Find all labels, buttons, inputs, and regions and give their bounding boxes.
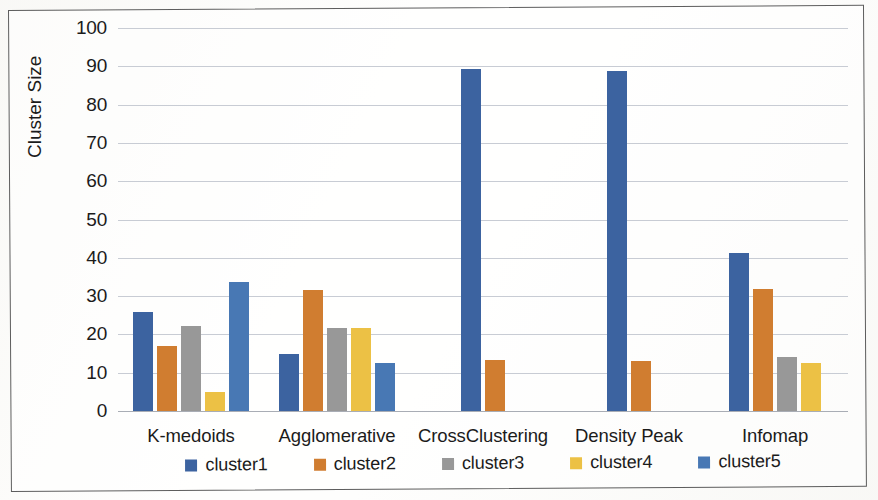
bar-cluster4[interactable] <box>801 363 821 411</box>
y-axis-tick-label: 20 <box>86 323 107 345</box>
bar-cluster3[interactable] <box>181 326 201 411</box>
legend-swatch-icon <box>314 458 326 470</box>
bar-group: CrossClustering <box>410 28 556 411</box>
bar-cluster5[interactable] <box>375 363 395 411</box>
bar-group: Infomap <box>702 28 848 411</box>
y-axis-tick-label: 0 <box>97 400 107 422</box>
bar-cluster1[interactable] <box>279 354 299 411</box>
legend-swatch-icon <box>570 457 582 469</box>
y-axis-tick-label: 60 <box>86 170 107 192</box>
legend-label: cluster4 <box>590 452 652 473</box>
bar-cluster3[interactable] <box>777 357 797 411</box>
legend-item-cluster5[interactable]: cluster5 <box>698 451 780 473</box>
legend-label: cluster3 <box>462 453 524 474</box>
legend-item-cluster4[interactable]: cluster4 <box>570 452 652 474</box>
legend-item-cluster3[interactable]: cluster3 <box>442 453 524 475</box>
legend-swatch-icon <box>698 456 710 468</box>
y-axis-tick-label: 70 <box>86 132 107 154</box>
x-axis-category-label: Infomap <box>742 425 808 447</box>
bar-cluster1[interactable] <box>607 71 627 411</box>
bar-cluster4[interactable] <box>351 328 371 411</box>
legend-item-cluster1[interactable]: cluster1 <box>185 454 267 476</box>
chart-legend: cluster1cluster2cluster3cluster4cluster5 <box>118 451 848 476</box>
y-axis-tick-label: 90 <box>86 55 107 77</box>
y-axis-tick-label: 40 <box>86 247 107 269</box>
bar-cluster5[interactable] <box>229 282 249 411</box>
bar-group-bars <box>264 28 410 411</box>
legend-label: cluster1 <box>205 454 267 475</box>
y-axis-tick-label: 10 <box>86 362 107 384</box>
y-axis-tick-label: 50 <box>86 209 107 231</box>
bar-cluster2[interactable] <box>631 361 651 411</box>
bar-cluster1[interactable] <box>133 312 153 411</box>
bar-group-bars <box>118 28 264 411</box>
legend-swatch-icon <box>442 457 454 469</box>
y-axis-tick-label: 30 <box>86 285 107 307</box>
bar-cluster1[interactable] <box>729 253 749 411</box>
bar-cluster2[interactable] <box>303 290 323 411</box>
bar-cluster2[interactable] <box>753 289 773 411</box>
bar-group-bars <box>556 28 702 411</box>
bar-cluster4[interactable] <box>205 392 225 411</box>
y-axis-title: Cluster Size <box>24 56 46 158</box>
x-axis-category-label: CrossClustering <box>418 425 548 447</box>
gridline <box>118 411 848 412</box>
legend-label: cluster2 <box>334 453 396 474</box>
chart-screenshot: 1009080706050403020100 K-medoidsAgglomer… <box>0 0 878 500</box>
legend-swatch-icon <box>185 459 197 471</box>
x-axis-category-label: Agglomerative <box>279 425 396 447</box>
bar-group: Density Peak <box>556 28 702 411</box>
legend-label: cluster5 <box>718 451 780 472</box>
bar-cluster2[interactable] <box>485 360 505 411</box>
legend-item-cluster2[interactable]: cluster2 <box>314 453 396 475</box>
bar-cluster2[interactable] <box>157 346 177 411</box>
bar-cluster3[interactable] <box>327 328 347 411</box>
bar-group: K-medoids <box>118 28 264 411</box>
y-axis-tick-label: 100 <box>76 17 107 39</box>
y-axis-tick-label: 80 <box>86 94 107 116</box>
bar-cluster1[interactable] <box>461 69 481 411</box>
bar-group: Agglomerative <box>264 28 410 411</box>
bar-group-bars <box>410 28 556 411</box>
x-axis-category-label: Density Peak <box>575 425 683 447</box>
plot-area: 1009080706050403020100 K-medoidsAgglomer… <box>118 28 848 411</box>
x-axis-category-label: K-medoids <box>147 425 235 447</box>
bar-group-bars <box>702 28 848 411</box>
